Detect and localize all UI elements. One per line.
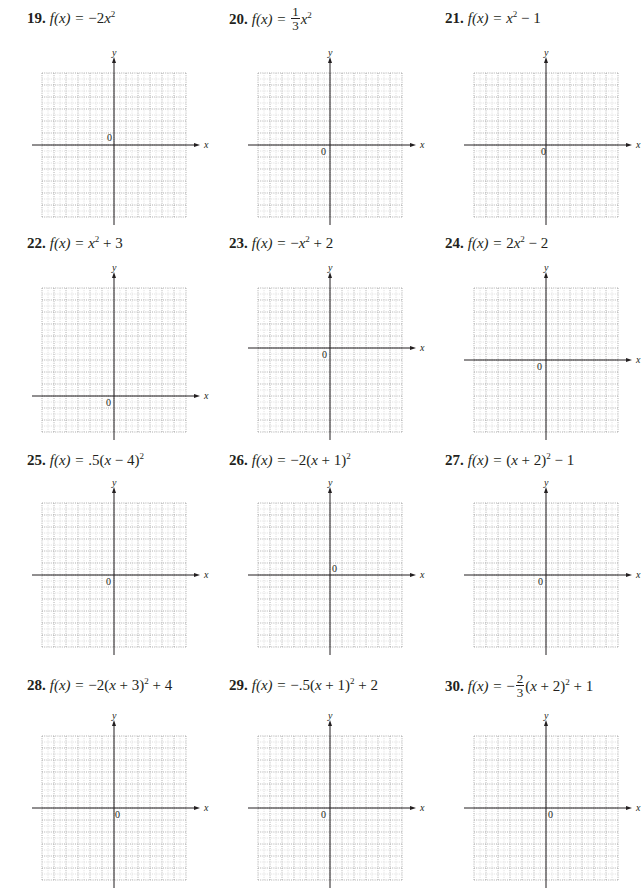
x-axis-arrow-icon [194,143,200,147]
origin-label: 0 [321,146,326,157]
coordinate-grid: xy0 [244,716,428,889]
exercise-number: 26. [229,452,248,468]
variable-x: x [104,10,111,26]
exercise-number: 28. [27,677,46,693]
expression-suffix: + 3 [99,235,122,251]
exercise-number: 29. [229,677,248,693]
y-axis-label: y [111,262,117,273]
expression-inner: + 2) [518,452,546,468]
function-expression: f(x) = −2(x + 3)2 + 4 [50,677,173,693]
exercise-title: 28.f(x) = −2(x + 3)2 + 4 [27,676,172,694]
y-axis-label: y [543,710,549,721]
exercise-number: 22. [27,235,46,251]
variable-x: x [511,452,518,468]
x-axis-arrow-icon [410,806,416,810]
coordinate-grid: xy0 [28,53,212,237]
y-axis-label: y [543,477,549,488]
y-axis-label: y [327,47,333,58]
fraction-denominator: 3 [516,686,525,699]
expression-suffix: − 2 [525,235,548,251]
y-axis-label: y [327,710,333,721]
function-lhs: f(x) = [50,452,85,468]
origin-label: 0 [321,809,326,820]
function-lhs: f(x) = [252,11,287,27]
coordinate-grid: xy0 [244,483,428,667]
exercise-title: 30.f(x) = −23(x + 2)2 + 1 [445,674,593,701]
function-lhs: f(x) = [50,677,85,693]
x-axis-label: x [635,139,641,150]
exercise-number: 24. [445,235,464,251]
y-axis-label: y [327,262,333,273]
expression-inner: + 1) [318,452,346,468]
expression-suffix: + 4 [149,677,172,693]
function-lhs: f(x) = [50,235,85,251]
function-expression: f(x) = −x2 + 2 [252,235,334,251]
exercise-number: 19. [27,10,46,26]
exercise-title: 27.f(x) = (x + 2)2 − 1 [445,451,574,469]
expression-prefix: 2 [506,235,514,251]
exercise-number: 21. [445,10,464,26]
variable-x: x [506,10,513,26]
function-lhs: f(x) = [50,10,85,26]
x-axis-arrow-icon [194,806,200,810]
variable-x: x [88,235,95,251]
variable-x: x [109,677,116,693]
exercise-number: 20. [229,11,248,27]
function-expression: f(x) = 13x2 [252,11,312,27]
origin-label: 0 [106,576,111,587]
exponent: 2 [140,451,145,461]
exercise-title: 23.f(x) = −x2 + 2 [229,234,333,252]
x-axis-label: x [419,139,425,150]
expression-suffix: − 1 [517,10,540,26]
function-expression: f(x) = x2 − 1 [468,10,541,26]
exponent: 2 [307,10,312,20]
exercise-title: 19.f(x) = −2x2 [27,9,115,27]
origin-label: 0 [106,397,111,408]
coordinate-grid: xy0 [460,268,642,452]
expression-prefix: −2( [290,452,311,468]
expression-suffix: − 1 [551,452,574,468]
function-expression: f(x) = (x + 2)2 − 1 [468,452,575,468]
function-expression: f(x) = −23(x + 2)2 + 1 [468,678,594,694]
coordinate-grid: xy0 [244,53,428,237]
coordinate-grid: xy0 [460,53,642,237]
exercise-number: 23. [229,235,248,251]
exercise-number: 25. [27,452,46,468]
expression-inner: + 1) [322,677,350,693]
exercise-title: 20.f(x) = 13x2 [229,7,312,34]
fraction-numerator: 1 [291,5,300,19]
y-axis-label: y [111,47,117,58]
fraction-sign: − [506,678,514,694]
function-expression: f(x) = −.5(x + 1)2 + 2 [252,677,378,693]
function-expression: f(x) = x2 + 3 [50,235,123,251]
expression-prefix: −2( [88,677,109,693]
coordinate-grid: xy0 [28,268,212,452]
variable-x: x [315,677,322,693]
x-axis-label: x [635,569,641,580]
expression-prefix: −.5( [290,677,315,693]
exercise-number: 27. [445,452,464,468]
y-axis-label: y [327,477,333,488]
origin-label: 0 [548,809,553,820]
x-axis-arrow-icon [410,573,416,577]
origin-label: 0 [107,132,112,143]
coordinate-grid: xy0 [460,716,642,889]
y-axis-label: y [111,477,117,488]
coordinate-grid: xy0 [28,483,212,667]
exercise-title: 29.f(x) = −.5(x + 1)2 + 2 [229,676,378,694]
variable-x: x [530,678,537,694]
x-axis-label: x [635,802,641,813]
x-axis-label: x [203,139,209,150]
expression-prefix: −2 [88,10,104,26]
expression-suffix: + 2 [310,235,333,251]
function-expression: f(x) = 2x2 − 2 [468,235,549,251]
exercise-number: 30. [445,678,464,694]
expression-prefix: − [290,235,298,251]
fraction-numerator: 2 [516,672,525,686]
exercise-title: 25.f(x) = .5(x − 4)2 [27,451,144,469]
coordinate-grid: xy0 [28,716,212,889]
fraction-coefficient: 13 [291,5,300,32]
x-axis-arrow-icon [194,573,200,577]
function-expression: f(x) = .5(x − 4)2 [50,452,144,468]
function-lhs: f(x) = [468,678,503,694]
